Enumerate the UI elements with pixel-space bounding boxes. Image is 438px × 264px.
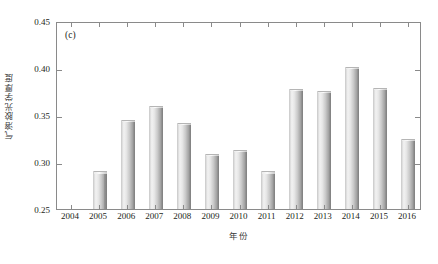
x-tick-mark <box>99 205 100 209</box>
y-tick-mark <box>415 117 420 118</box>
x-tick-label: 2016 <box>398 212 416 221</box>
bar <box>233 150 247 209</box>
x-tick-label: 2012 <box>286 212 304 221</box>
x-tick-mark <box>408 23 409 27</box>
y-tick-mark <box>415 164 420 165</box>
bar <box>289 89 303 209</box>
y-tick-mark <box>57 70 62 71</box>
x-tick-mark <box>324 23 325 27</box>
x-axis-tick-labels: 2004200520062007200820092010201120122013… <box>56 212 421 228</box>
bar <box>345 67 359 209</box>
x-tick-label: 2009 <box>201 212 219 221</box>
x-tick-mark <box>183 205 184 209</box>
x-tick-mark <box>324 205 325 209</box>
y-tick-label: 0.25 <box>34 206 50 215</box>
x-tick-mark <box>296 23 297 27</box>
bar <box>205 154 219 209</box>
y-tick-label: 0.40 <box>34 65 50 74</box>
y-tick-label: 0.30 <box>34 159 50 168</box>
y-tick-mark <box>415 70 420 71</box>
bar <box>93 171 107 209</box>
x-tick-mark <box>99 23 100 27</box>
x-tick-label: 2008 <box>173 212 191 221</box>
bar <box>149 106 163 209</box>
x-tick-mark <box>296 205 297 209</box>
x-tick-mark <box>211 205 212 209</box>
y-tick-label: 0.45 <box>34 18 50 27</box>
x-tick-label: 2013 <box>314 212 332 221</box>
x-tick-mark <box>71 205 72 209</box>
x-tick-mark <box>71 23 72 27</box>
x-tick-mark <box>408 205 409 209</box>
y-tick-label: 0.35 <box>34 112 50 121</box>
x-tick-mark <box>352 23 353 27</box>
x-tick-mark <box>268 23 269 27</box>
x-tick-mark <box>240 205 241 209</box>
x-tick-mark <box>127 23 128 27</box>
bar <box>177 123 191 209</box>
bar <box>121 120 135 209</box>
bar <box>373 88 387 209</box>
panel-label: (c) <box>65 30 76 40</box>
x-tick-mark <box>155 205 156 209</box>
x-tick-mark <box>268 205 269 209</box>
x-tick-mark <box>352 205 353 209</box>
x-tick-mark <box>183 23 184 27</box>
y-tick-mark <box>57 164 62 165</box>
x-tick-label: 2011 <box>258 212 276 221</box>
x-tick-label: 2007 <box>145 212 163 221</box>
chart-figure: 气溶胶光学厚度 0.250.300.350.400.45 (c) 2004200… <box>0 0 438 264</box>
x-tick-mark <box>240 23 241 27</box>
y-tick-mark <box>57 117 62 118</box>
bar <box>261 171 275 209</box>
x-tick-mark <box>127 205 128 209</box>
x-tick-label: 2010 <box>230 212 248 221</box>
y-axis-tick-labels: 0.250.300.350.400.45 <box>17 0 53 232</box>
x-tick-mark <box>211 23 212 27</box>
x-tick-label: 2006 <box>117 212 135 221</box>
x-tick-label: 2004 <box>61 212 79 221</box>
x-tick-label: 2005 <box>89 212 107 221</box>
y-axis-title: 气溶胶光学厚度 <box>3 0 17 212</box>
x-tick-label: 2015 <box>370 212 388 221</box>
bar <box>317 91 331 209</box>
x-axis-title: 年份 <box>56 229 421 241</box>
x-tick-mark <box>155 23 156 27</box>
plot-area: (c) <box>56 22 421 210</box>
x-tick-label: 2014 <box>342 212 360 221</box>
x-tick-mark <box>380 23 381 27</box>
bar <box>401 139 415 210</box>
x-tick-mark <box>380 205 381 209</box>
